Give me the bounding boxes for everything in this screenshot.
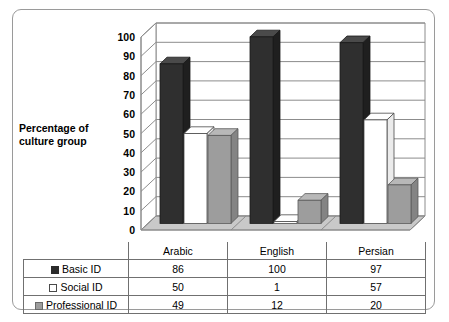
legend-label-social-id: Social ID: [60, 281, 102, 293]
bar-persian-professional: [388, 178, 418, 223]
table-row: Basic ID 86 100 97: [24, 260, 426, 278]
table-corner-cell: [24, 242, 129, 260]
y-tick-60: 60: [109, 109, 135, 119]
cell-basic-persian: 97: [327, 260, 426, 278]
professional-swatch-icon: [35, 302, 43, 310]
cell-basic-arabic: 86: [129, 260, 228, 278]
cell-social-arabic: 50: [129, 278, 228, 296]
cell-basic-english: 100: [228, 260, 327, 278]
basic-swatch-icon: [51, 266, 59, 274]
bar-english-professional: [298, 194, 328, 224]
social-swatch-icon: [49, 284, 57, 292]
legend-item-basic-id: Basic ID: [24, 260, 129, 278]
cell-social-persian: 57: [327, 278, 426, 296]
y-axis-title-line-2: culture group: [19, 135, 107, 148]
y-tick-10: 10: [109, 206, 135, 216]
data-table: Arabic English Persian Basic ID 86 100 9…: [23, 242, 426, 314]
y-tick-90: 90: [109, 51, 135, 61]
y-tick-80: 80: [109, 71, 135, 81]
cell-social-english: 1: [228, 278, 327, 296]
y-tick-50: 50: [109, 129, 135, 139]
y-tick-100: 100: [109, 32, 135, 42]
column-header-persian: Persian: [327, 242, 426, 260]
cell-professional-english: 12: [228, 296, 327, 314]
y-tick-0: 0: [109, 225, 135, 235]
column-header-english: English: [228, 242, 327, 260]
bar-arabic-professional: [208, 129, 238, 224]
legend-label-basic-id: Basic ID: [62, 263, 101, 275]
y-tick-30: 30: [109, 167, 135, 177]
legend-item-professional-id: Professional ID: [24, 296, 129, 314]
table-row-categories: Arabic English Persian: [24, 242, 426, 260]
y-tick-40: 40: [109, 148, 135, 158]
legend-item-social-id: Social ID: [24, 278, 129, 296]
plot-area: Percentage of culture group 100 90 80 70…: [13, 10, 436, 242]
column-header-arabic: Arabic: [129, 242, 228, 260]
chart-frame: Percentage of culture group 100 90 80 70…: [12, 9, 435, 310]
y-tick-70: 70: [109, 90, 135, 100]
bar-english-basic: [250, 30, 280, 223]
legend-label-professional-id: Professional ID: [46, 299, 117, 311]
table-row: Professional ID 49 12 20: [24, 296, 426, 314]
table-row: Social ID 50 1 57: [24, 278, 426, 296]
y-tick-20: 20: [109, 186, 135, 196]
cell-professional-persian: 20: [327, 296, 426, 314]
y-axis-title-line-1: Percentage of: [19, 122, 107, 135]
cell-professional-arabic: 49: [129, 296, 228, 314]
y-axis-title: Percentage of culture group: [19, 122, 107, 148]
